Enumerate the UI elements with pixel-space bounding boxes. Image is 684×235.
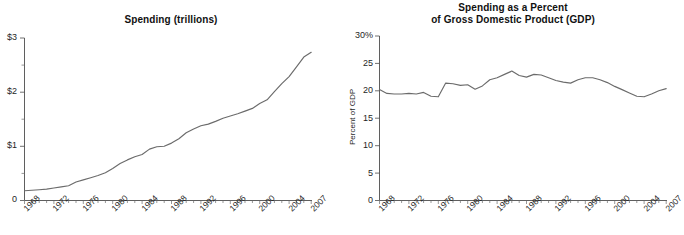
panel-spending-percent-gdp: Spending as a Percent of Gross Domestic …	[342, 0, 684, 235]
series-line-spending-trillions	[25, 52, 312, 191]
y-tick-label-right-5: 5	[344, 169, 373, 178]
y-tick-label-left-0: $3	[0, 33, 17, 42]
y-ticks-right	[375, 36, 380, 201]
y-tick-label-left-2: $1	[0, 141, 17, 150]
y-tick-label-left-1: $2	[0, 87, 17, 96]
series-line-spending-percent-gdp	[380, 71, 667, 97]
panel-spending-trillions: Spending (trillions)	[0, 0, 342, 235]
y-tick-label-right-0: 30%	[344, 31, 373, 40]
y-ticks-left	[20, 38, 25, 201]
y-axis-title-right: Percent of GDP	[349, 86, 357, 148]
two-panel-line-chart-figure: Spending (trillions)	[0, 0, 684, 235]
y-tick-label-right-6: 0	[344, 196, 373, 205]
plot-area-left	[0, 0, 342, 235]
y-tick-label-left-3: 0	[0, 195, 17, 204]
y-tick-label-right-1: 25	[344, 59, 373, 68]
